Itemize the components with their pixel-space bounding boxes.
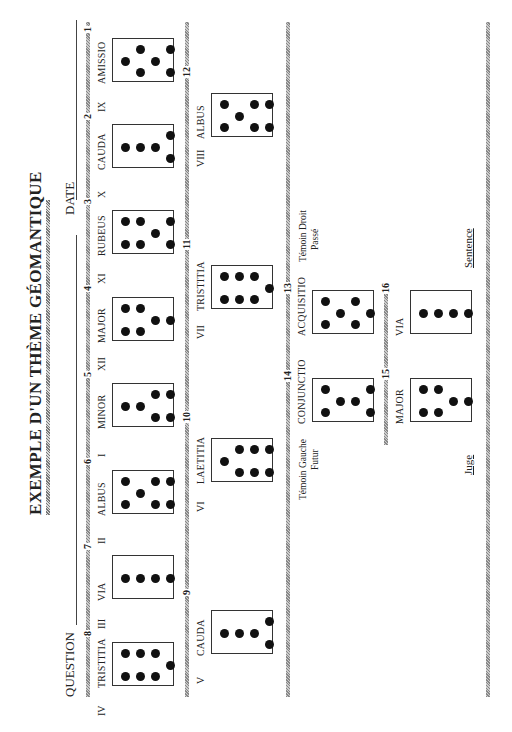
figure-dot — [151, 672, 160, 681]
figure-dot — [336, 309, 345, 318]
figure-dot — [321, 385, 330, 394]
figure-roman-numeral: XII — [96, 357, 107, 371]
figure-box-tristitia — [211, 265, 273, 309]
figure-dot — [121, 500, 130, 509]
house-number-4: 4 — [82, 285, 93, 292]
house-number-2: 2 — [82, 113, 93, 120]
figure-dot — [121, 304, 130, 313]
figure-roman-numeral: IX — [96, 101, 107, 112]
figure-dot — [121, 402, 130, 411]
figure-box-albus — [112, 470, 174, 514]
house-number-7: 7 — [82, 543, 93, 550]
figure-dot — [136, 143, 145, 152]
figure-dot — [166, 661, 175, 670]
figure-name: VIA — [96, 583, 107, 601]
figure-box-major — [410, 378, 472, 422]
house-number-11: 11 — [181, 239, 192, 250]
figure-dot — [136, 649, 145, 658]
house-number-9: 9 — [181, 589, 192, 596]
house-number-13: 13 — [282, 282, 293, 294]
figure-dot — [265, 123, 274, 132]
figure-box-cauda — [211, 610, 273, 654]
figure-dot — [250, 629, 259, 638]
figure-dot — [166, 390, 175, 399]
figure-dot — [166, 574, 175, 583]
figure-dot — [265, 617, 274, 626]
page-title: EXEMPLE D'UN THÈME GÉOMANTIQUE — [26, 171, 46, 515]
figure-box-via — [410, 290, 472, 334]
figure-roman-numeral: IV — [96, 705, 107, 716]
figure-dot — [166, 477, 175, 486]
figure-dot — [419, 408, 428, 417]
figure-dot — [351, 397, 360, 406]
figure-roman-numeral: VIII — [195, 150, 206, 167]
figure-name: ALBUS — [195, 105, 206, 139]
sentence-label: Sentence — [462, 228, 474, 268]
figure-name: MINOR — [96, 395, 107, 429]
figure-dot — [250, 123, 259, 132]
figure-box-amissio — [112, 38, 174, 82]
figure-dot — [220, 272, 229, 281]
figure-name: RUBEUS — [96, 215, 107, 256]
figure-box-cauda — [112, 124, 174, 168]
figure-dot — [166, 500, 175, 509]
judge-label: Juge — [462, 455, 474, 475]
figure-roman-numeral: V — [195, 677, 206, 684]
figure-box-tristitia — [112, 642, 174, 686]
figure-dot — [220, 100, 229, 109]
figure-dot — [250, 445, 259, 454]
figure-name: AMISSIO — [96, 41, 107, 84]
figure-box-major — [112, 297, 174, 341]
figure-dot — [366, 408, 375, 417]
figure-dot — [151, 57, 160, 66]
figure-dot — [351, 297, 360, 306]
figure-dot — [166, 154, 175, 163]
figure-dot — [265, 284, 274, 293]
figure-dot — [166, 316, 175, 325]
figure-dot — [136, 304, 145, 313]
figure-dot — [121, 672, 130, 681]
figure-dot — [136, 240, 145, 249]
figure-dot — [265, 468, 274, 477]
figure-roman-numeral: II — [96, 537, 107, 544]
figure-dot — [166, 217, 175, 226]
figure-name: LAETITIA — [195, 437, 206, 484]
figure-dot — [121, 217, 130, 226]
figure-box-albus — [211, 93, 273, 137]
figure-name: CONJUNCTIO — [296, 359, 307, 424]
figure-dot — [151, 143, 160, 152]
figure-dot — [151, 390, 160, 399]
figure-box-conjunctio — [312, 378, 374, 422]
witness-left-sublabel: Futur — [310, 449, 320, 470]
figure-dot — [166, 240, 175, 249]
figure-name: CAUDA — [195, 619, 206, 656]
figure-dot — [250, 100, 259, 109]
figure-dot — [250, 468, 259, 477]
figure-dot — [220, 123, 229, 132]
figure-dot — [366, 309, 375, 318]
figure-dot — [321, 320, 330, 329]
question-line — [76, 235, 77, 625]
figure-dot — [136, 68, 145, 77]
figure-box-acquisitio — [312, 290, 374, 334]
house-number-12: 12 — [181, 66, 192, 78]
figure-dot — [136, 45, 145, 54]
figure-dot — [464, 309, 473, 318]
figure-dot — [220, 629, 229, 638]
figure-name: TRISTITIA — [195, 261, 206, 311]
figure-roman-numeral: XI — [96, 273, 107, 284]
figure-dot — [449, 397, 458, 406]
figure-dot — [121, 143, 130, 152]
title-underline — [46, 200, 50, 515]
figure-dot — [434, 385, 443, 394]
figure-dot — [351, 320, 360, 329]
figure-dot — [136, 402, 145, 411]
figure-name: VIA — [394, 318, 405, 336]
figure-dot — [121, 57, 130, 66]
figure-name: ACQUISITIO — [296, 277, 307, 336]
figure-dot — [235, 295, 244, 304]
witness-left-label: Témoin Gauche — [298, 439, 308, 500]
figure-dot — [121, 327, 130, 336]
question-label: QUESTION — [62, 632, 78, 697]
figure-dot — [265, 100, 274, 109]
